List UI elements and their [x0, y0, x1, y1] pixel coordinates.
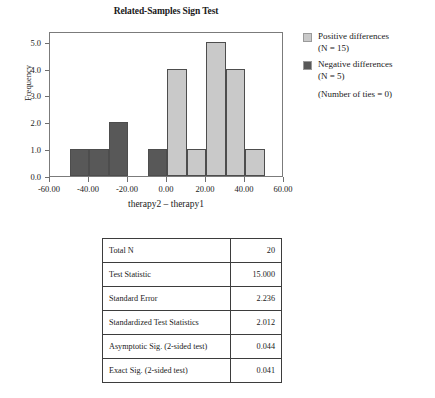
histogram-bar	[148, 149, 168, 176]
legend-label-positive: Positive differences	[318, 31, 389, 41]
chart-legend: Positive differences (N = 15) Negative d…	[303, 31, 435, 101]
x-tick-mark	[88, 177, 89, 182]
stat-value: 20	[231, 239, 282, 263]
stat-value: 0.041	[231, 359, 282, 383]
y-tick-mark	[45, 96, 49, 97]
y-tick-label: 5.0	[13, 39, 41, 48]
sign-test-chart: Related-Samples Sign Test Frequency 0.01…	[0, 0, 435, 222]
plot-area	[50, 33, 282, 176]
y-tick-label: 3.0	[13, 92, 41, 101]
y-tick-label: 0.0	[13, 173, 41, 182]
legend-count-negative: (N = 5)	[318, 71, 435, 83]
stat-value: 2.012	[231, 311, 282, 335]
table-row: Test Statistic15.000	[103, 263, 282, 287]
chart-title: Related-Samples Sign Test	[49, 6, 283, 16]
stat-value: 15.000	[231, 263, 282, 287]
legend-label-negative: Negative differences	[318, 59, 393, 69]
y-tick-mark	[45, 123, 49, 124]
x-tick-label: 60.00	[258, 185, 308, 194]
x-tick-mark	[127, 177, 128, 182]
table-row: Standardized Test Statistics2.012	[103, 311, 282, 335]
stat-label: Asymptotic Sig. (2-sided test)	[103, 335, 231, 359]
stat-value: 0.044	[231, 335, 282, 359]
histogram-bar	[187, 149, 207, 176]
histogram-bar	[245, 149, 265, 176]
stat-value: 2.236	[231, 287, 282, 311]
legend-item-positive: Positive differences (N = 15)	[303, 31, 435, 54]
stats-table: Total N20Test Statistic15.000Standard Er…	[102, 238, 282, 383]
stats-table-container: Total N20Test Statistic15.000Standard Er…	[102, 238, 282, 383]
y-tick-mark	[45, 43, 49, 44]
x-tick-mark	[244, 177, 245, 182]
x-tick-mark	[49, 177, 50, 182]
table-row: Asymptotic Sig. (2-sided test)0.044	[103, 335, 282, 359]
legend-swatch-positive-icon	[303, 33, 312, 42]
table-row: Standard Error2.236	[103, 287, 282, 311]
plot-frame	[49, 32, 283, 177]
y-axis-label: Frequency	[23, 53, 33, 113]
stat-label: Standard Error	[103, 287, 231, 311]
x-tick-mark	[283, 177, 284, 182]
legend-item-negative: Negative differences (N = 5)	[303, 59, 435, 82]
stat-label: Standardized Test Statistics	[103, 311, 231, 335]
x-tick-mark	[205, 177, 206, 182]
x-tick-mark	[166, 177, 167, 182]
histogram-bar	[70, 149, 90, 176]
legend-swatch-negative-icon	[303, 61, 312, 70]
table-row: Total N20	[103, 239, 282, 263]
y-tick-mark	[45, 70, 49, 71]
stat-label: Exact Sig. (2-sided test)	[103, 359, 231, 383]
y-tick-label: 2.0	[13, 119, 41, 128]
histogram-bar	[226, 69, 246, 176]
legend-count-positive: (N = 15)	[318, 43, 435, 55]
histogram-bar	[167, 69, 187, 176]
y-tick-label: 1.0	[13, 146, 41, 155]
histogram-bar	[89, 149, 109, 176]
histogram-bar	[206, 42, 226, 176]
table-row: Exact Sig. (2-sided test)0.041	[103, 359, 282, 383]
y-tick-mark	[45, 150, 49, 151]
legend-ties-note: (Number of ties = 0)	[303, 89, 435, 101]
y-tick-label: 4.0	[13, 66, 41, 75]
x-axis-label: therapy2 – therapy1	[49, 199, 283, 209]
stat-label: Total N	[103, 239, 231, 263]
histogram-bar	[109, 122, 129, 176]
stat-label: Test Statistic	[103, 263, 231, 287]
